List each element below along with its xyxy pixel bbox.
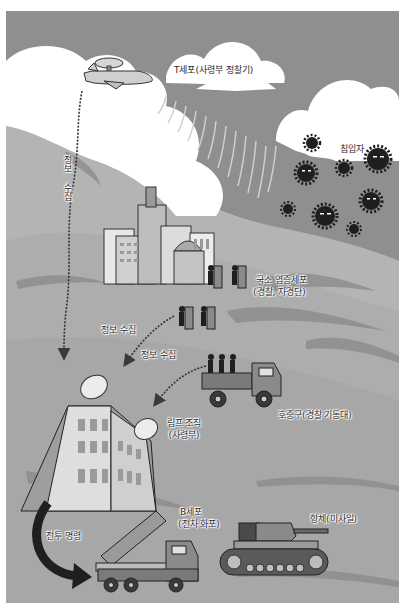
virus-intruder-icon: [295, 162, 317, 184]
virus-intruder-icon: [336, 160, 352, 176]
label-local-immune-line1: 국소 염증세포: [256, 275, 307, 286]
label-b-cell-line1: B세포: [180, 507, 202, 518]
label-info-collection-vertical: 정보 수집: [61, 155, 72, 225]
virus-intruder-icon: [313, 204, 337, 228]
label-neutrophil: 호중구(경찰 기동대): [278, 410, 352, 421]
label-lymph-line1: 림프 조직: [162, 418, 206, 429]
label-local-immune-line2: (경찰, 자경단): [253, 287, 306, 298]
label-intruder: 침입자: [340, 144, 364, 155]
virus-intruder-icon: [347, 222, 361, 236]
label-battle-command: 전투 명령: [46, 531, 81, 542]
illustration-stage: T세포(사령부 정찰기) 침입자 정보 수집 국소 염증세포 (경찰, 자경단)…: [6, 11, 399, 603]
label-antibody: 항체(미사일): [310, 514, 357, 525]
label-b-cell-line2: (전차 화포): [178, 519, 220, 530]
label-t-cell: T세포(사령부 정찰기): [174, 65, 253, 76]
label-info-collection-1: 정보 수집: [101, 325, 136, 336]
label-lymph-line2: (사령부): [162, 430, 206, 441]
virus-intruder-icon: [281, 202, 295, 216]
virus-intruder-icon: [360, 190, 382, 212]
label-info-collection-2: 정보 수집: [141, 350, 176, 361]
